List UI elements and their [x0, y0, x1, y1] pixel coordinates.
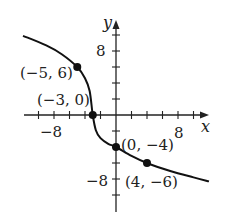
y-tick-label-neg8: −8 — [86, 172, 108, 190]
x-tick-label-neg8: −8 — [40, 123, 62, 141]
data-point — [89, 111, 97, 119]
y-axis-arrow-icon — [113, 20, 120, 29]
graph: y x 8 −8 −8 8 (−5, 6) (−3, 0) (0, −4) (4… — [0, 0, 234, 216]
y-axis-label: y — [102, 13, 113, 32]
y-tick-label-8: 8 — [96, 42, 106, 60]
data-point — [73, 63, 81, 71]
point-label-0-neg4: (0, −4) — [121, 136, 174, 154]
point-label-neg3-0: (−3, 0) — [37, 91, 90, 109]
data-point — [112, 143, 120, 151]
data-point — [143, 159, 151, 167]
point-label-neg5-6: (−5, 6) — [20, 64, 73, 82]
point-label-4-neg6: (4, −6) — [125, 173, 178, 191]
x-axis-label: x — [201, 117, 210, 136]
x-tick-label-8: 8 — [174, 124, 184, 142]
